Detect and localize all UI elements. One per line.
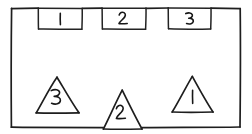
diagram-canvas: Hand-drawn diagram: rectangle with numbe… (0, 0, 252, 134)
triangle-2[interactable] (103, 90, 142, 129)
square-2[interactable] (102, 8, 146, 29)
square-3[interactable] (168, 8, 211, 29)
hand-drawn-diagram (0, 0, 252, 134)
triangle-1[interactable] (172, 76, 213, 112)
rectangle-bottom-edge-segment-b (142, 127, 240, 128)
square-1[interactable] (38, 8, 82, 29)
triangle-3[interactable] (36, 77, 79, 113)
